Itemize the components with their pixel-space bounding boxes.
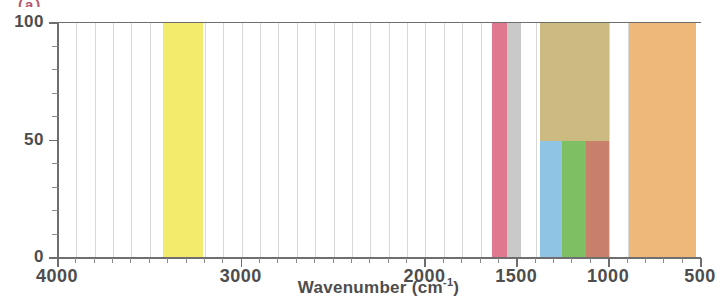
x-tick-minor — [167, 258, 168, 263]
y-tick-label: 0 — [0, 247, 44, 267]
band-series — [58, 23, 701, 258]
x-tick-minor — [112, 258, 113, 263]
y-tick-minor — [52, 46, 58, 47]
x-tick-minor — [204, 258, 205, 263]
orange-band — [629, 23, 696, 258]
x-tick-minor — [388, 258, 389, 263]
y-tick-minor — [52, 116, 58, 117]
x-tick-minor — [149, 258, 150, 263]
y-tick-label: 100 — [0, 12, 44, 32]
x-tick-minor — [314, 258, 315, 263]
x-tick-minor — [682, 258, 683, 263]
x-tick-minor — [553, 258, 554, 263]
x-tick-minor — [186, 258, 187, 263]
x-axis-title-text: Wavenumber (cm — [298, 278, 443, 297]
blue-band — [540, 141, 562, 259]
x-tick-minor — [222, 258, 223, 263]
y-tick-minor — [52, 234, 58, 235]
x-tick-minor — [333, 258, 334, 263]
x-tick-minor — [663, 258, 664, 263]
x-tick-minor — [130, 258, 131, 263]
y-tick-minor — [52, 163, 58, 164]
y-tick-minor — [52, 210, 58, 211]
x-tick-minor — [296, 258, 297, 263]
x-tick-minor — [461, 258, 462, 263]
x-tick-minor — [443, 258, 444, 263]
x-tick-minor — [369, 258, 370, 263]
green-band — [562, 141, 585, 259]
clipped-panel-label: (a) — [18, 0, 66, 7]
plot-area — [57, 22, 701, 258]
x-tick-minor — [351, 258, 352, 263]
x-axis-title-superscript: -1 — [443, 276, 453, 288]
x-axis-title-suffix: ) — [453, 278, 459, 297]
y-tick-minor — [52, 69, 58, 70]
x-axis-line — [57, 257, 701, 259]
x-tick-minor — [277, 258, 278, 263]
x-tick-minor — [94, 258, 95, 263]
gray-band — [507, 23, 521, 258]
pink-band — [492, 23, 508, 258]
salmon-band — [586, 141, 610, 259]
x-tick-minor — [627, 258, 628, 263]
y-tick-major — [49, 22, 58, 24]
x-tick-minor — [75, 258, 76, 263]
x-tick-minor — [590, 258, 591, 263]
x-axis-title: Wavenumber (cm-1) — [57, 276, 700, 298]
yellow-band — [163, 23, 203, 258]
y-tick-minor — [52, 93, 58, 94]
y-tick-label: 50 — [0, 130, 44, 150]
x-tick-minor — [406, 258, 407, 263]
y-tick-minor — [52, 187, 58, 188]
x-tick-minor — [571, 258, 572, 263]
x-tick-minor — [498, 258, 499, 263]
x-tick-minor — [480, 258, 481, 263]
x-tick-minor — [645, 258, 646, 263]
x-tick-minor — [259, 258, 260, 263]
y-tick-major — [49, 140, 58, 142]
x-tick-minor — [535, 258, 536, 263]
